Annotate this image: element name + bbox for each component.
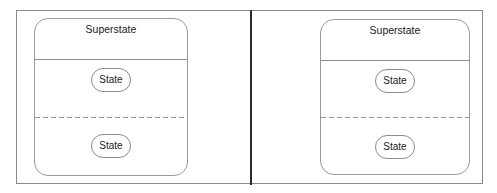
superstate-right: Superstate State State <box>320 19 470 175</box>
state-node: State <box>91 134 131 158</box>
dashed-separator <box>35 117 187 118</box>
panel-divider <box>250 10 252 185</box>
superstate-title: Superstate <box>35 22 187 36</box>
superstate-title: Superstate <box>321 23 469 37</box>
dashed-separator <box>321 117 469 118</box>
state-node: State <box>375 69 415 93</box>
solid-separator <box>321 60 469 61</box>
solid-separator <box>35 59 187 60</box>
state-node: State <box>375 135 415 159</box>
superstate-left: Superstate State State <box>34 18 188 176</box>
state-node: State <box>91 68 131 92</box>
